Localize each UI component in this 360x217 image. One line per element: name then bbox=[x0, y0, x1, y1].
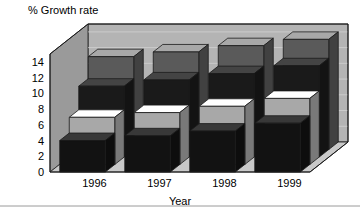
bar-front-face bbox=[125, 136, 171, 172]
bar-front-face bbox=[190, 131, 236, 172]
bar-1996-series-1 bbox=[60, 133, 115, 172]
y-tick-label-8: 8 bbox=[38, 103, 44, 115]
y-tick-label-4: 4 bbox=[38, 135, 44, 147]
x-axis-title: Year bbox=[169, 195, 192, 207]
y-tick-label-2: 2 bbox=[38, 150, 44, 162]
bar-side-face bbox=[245, 99, 255, 165]
chart-canvas: 02468101214% Growth rate1996199719981999… bbox=[0, 0, 360, 217]
y-tick-label-6: 6 bbox=[38, 119, 44, 131]
y-tick-label-12: 12 bbox=[32, 72, 44, 84]
bar-front-face bbox=[255, 123, 301, 172]
bar-side-face bbox=[329, 32, 339, 150]
chart-title: % Growth rate bbox=[28, 4, 98, 16]
bar-side-face bbox=[235, 124, 245, 172]
bar-side-face bbox=[310, 91, 320, 165]
bar-1998-series-1 bbox=[190, 124, 245, 172]
growth-rate-3d-bar-chart: 02468101214% Growth rate1996199719981999… bbox=[0, 0, 360, 217]
bar-1997-series-1 bbox=[125, 128, 180, 172]
y-tick-label-0: 0 bbox=[38, 166, 44, 178]
bar-side-face bbox=[170, 128, 180, 172]
x-tick-label-1996: 1996 bbox=[82, 177, 106, 189]
x-tick-label-1997: 1997 bbox=[147, 177, 171, 189]
x-tick-label-1998: 1998 bbox=[212, 177, 236, 189]
bar-side-face bbox=[300, 116, 310, 172]
bar-side-face bbox=[180, 105, 190, 164]
bar-side-face bbox=[319, 58, 329, 157]
y-tick-label-10: 10 bbox=[32, 87, 44, 99]
bar-side-face bbox=[115, 110, 125, 165]
bar-1999-series-1 bbox=[255, 116, 310, 172]
bar-front-face bbox=[60, 141, 106, 172]
x-tick-label-1999: 1999 bbox=[277, 177, 301, 189]
y-tick-label-14: 14 bbox=[32, 56, 44, 68]
